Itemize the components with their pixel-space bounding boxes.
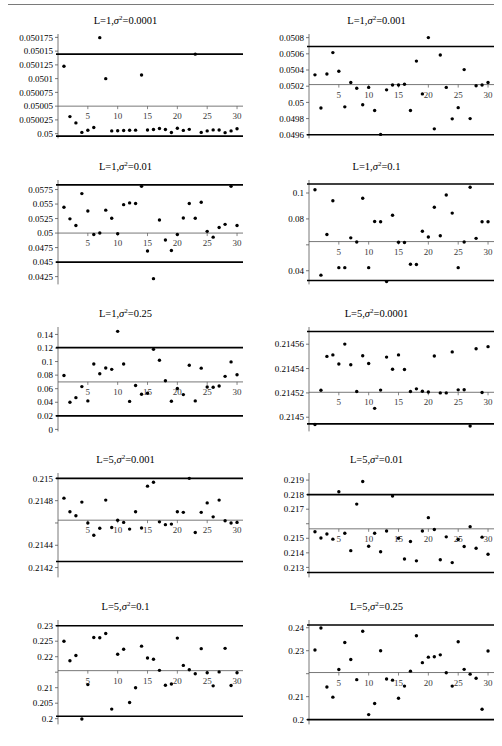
data-point: [62, 206, 65, 209]
y-tick-label: 0.2: [42, 713, 53, 723]
x-tick-label: 25: [454, 397, 464, 407]
data-point: [433, 206, 436, 209]
x-tick-label: 15: [394, 677, 404, 687]
data-point: [349, 657, 352, 660]
data-point: [200, 201, 203, 204]
scatter-plot: 0.040.080.151015202530: [251, 160, 502, 306]
y-tick-label: 0.050175: [19, 33, 53, 43]
y-tick-label: 0.0504: [279, 65, 304, 75]
data-point: [439, 234, 442, 237]
data-point: [439, 53, 442, 56]
data-point: [182, 129, 185, 132]
y-tick-label: 0.23: [288, 646, 304, 656]
x-tick-label: 15: [394, 397, 404, 407]
data-point: [337, 70, 340, 73]
data-point: [379, 133, 382, 136]
y-tick-label: 0.225: [33, 636, 54, 646]
x-tick-label: 15: [394, 90, 404, 100]
data-point: [68, 115, 71, 118]
data-point: [152, 657, 155, 660]
y-tick-label: 0.0475: [28, 243, 53, 253]
x-tick-label: 30: [484, 677, 494, 687]
data-point: [427, 236, 430, 239]
data-point: [205, 129, 208, 132]
data-point: [367, 86, 370, 89]
data-point: [110, 367, 113, 370]
data-point: [391, 214, 394, 217]
x-tick-label: 10: [113, 525, 123, 535]
figure-page: L=1,σ2=0.00010.050.0500250.050050.050075…: [0, 0, 502, 746]
chart-panel: L=1,σ2=0.0010.04960.04980.050.05020.0504…: [251, 14, 502, 160]
data-point: [462, 241, 465, 244]
data-point: [200, 511, 203, 514]
data-point: [205, 385, 208, 388]
data-point: [349, 237, 352, 240]
data-point: [80, 501, 83, 504]
scatter-plot: 0.21450.214520.214540.2145651015202530: [251, 307, 502, 453]
x-tick-label: 20: [424, 677, 434, 687]
data-point: [451, 117, 454, 120]
data-point: [319, 106, 322, 109]
x-tick-label: 30: [233, 387, 243, 397]
scatter-plot: 0.050.0500250.050050.0500750.05010.05012…: [0, 14, 251, 160]
data-point: [385, 355, 388, 358]
chart-panel: L=1,σ2=0.00010.050.0500250.050050.050075…: [0, 14, 251, 160]
data-point: [217, 670, 220, 673]
data-point: [361, 480, 364, 483]
data-point: [480, 391, 483, 394]
data-point: [229, 129, 232, 132]
data-point: [355, 678, 358, 681]
data-point: [480, 707, 483, 710]
data-point: [188, 202, 191, 205]
data-point: [439, 558, 442, 561]
y-tick-label: 0.1: [42, 357, 53, 367]
y-tick-label: 0.050075: [19, 88, 53, 98]
data-point: [397, 241, 400, 244]
data-point: [409, 263, 412, 266]
data-point: [319, 536, 322, 539]
data-point: [355, 241, 358, 244]
data-point: [68, 510, 71, 513]
chart-panel: L=1,σ2=0.010.04250.0450.04750.050.05250.…: [0, 160, 251, 306]
data-point: [194, 672, 197, 675]
data-point: [474, 237, 477, 240]
data-point: [211, 385, 214, 388]
data-point: [128, 399, 131, 402]
data-point: [367, 545, 370, 548]
data-point: [319, 626, 322, 629]
scatter-plot: 0.20.210.230.2451015202530: [251, 600, 502, 746]
data-point: [439, 653, 442, 656]
y-tick-label: 0.0508: [279, 33, 304, 43]
x-tick-label: 5: [86, 111, 91, 121]
data-point: [134, 686, 137, 689]
x-tick-label: 10: [364, 677, 374, 687]
data-point: [158, 668, 161, 671]
data-point: [146, 128, 149, 131]
data-point: [200, 647, 203, 650]
x-tick-label: 30: [233, 111, 243, 121]
data-point: [445, 194, 448, 197]
data-point: [397, 696, 400, 699]
data-point: [211, 684, 214, 687]
data-point: [427, 36, 430, 39]
data-point: [205, 501, 208, 504]
data-point: [74, 224, 77, 227]
y-tick-label: 0.2145: [279, 412, 304, 422]
x-tick-label: 30: [233, 675, 243, 685]
y-tick-label: 0.06: [37, 384, 53, 394]
data-point: [385, 280, 388, 283]
chart-panel: L=5,σ2=0.250.20.210.230.2451015202530: [251, 600, 502, 746]
data-point: [158, 219, 161, 222]
y-tick-label: 0.205: [33, 698, 54, 708]
data-point: [74, 653, 77, 656]
data-point: [140, 644, 143, 647]
data-point: [361, 197, 364, 200]
data-point: [98, 36, 101, 39]
data-point: [456, 106, 459, 109]
y-tick-label: 0.0575: [28, 185, 53, 195]
y-tick-label: 0.08: [37, 370, 53, 380]
data-point: [92, 126, 95, 129]
x-tick-label: 5: [337, 90, 342, 100]
data-point: [421, 389, 424, 392]
data-point: [409, 109, 412, 112]
